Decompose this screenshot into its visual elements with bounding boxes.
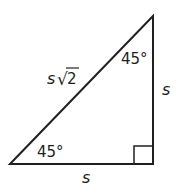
vertical-side-label: s — [162, 80, 170, 99]
bottom-angle-label: 45° — [37, 143, 64, 161]
top-angle-label: 45° — [121, 50, 148, 68]
hypotenuse-radicand: 2 — [67, 70, 77, 88]
triangle-diagram: 45° 45° s √ 2 s s — [0, 0, 180, 193]
hypotenuse-label-s: s — [47, 69, 55, 88]
horizontal-side-label: s — [82, 168, 90, 187]
right-angle-marker — [134, 146, 153, 164]
right-triangle — [10, 16, 153, 164]
